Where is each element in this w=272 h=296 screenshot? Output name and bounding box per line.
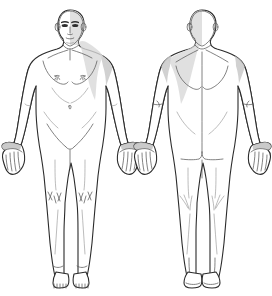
anterior-left-eye (62, 24, 68, 27)
posterior-left-foot (184, 272, 202, 288)
figure-posterior[interactable] (134, 10, 271, 288)
posterior-body-outline[interactable] (146, 10, 260, 280)
posterior-left-arm[interactable] (146, 67, 168, 145)
anterior-right-eye (72, 24, 78, 27)
posterior-right-foot (202, 272, 220, 288)
anterior-left-arm[interactable] (14, 67, 36, 145)
body-diagram-canvas[interactable] (0, 0, 272, 296)
posterior-right-arm[interactable] (238, 67, 260, 145)
anterior-right-foot (73, 272, 89, 288)
anterior-body-outline[interactable] (14, 10, 128, 280)
figure-anterior[interactable] (2, 10, 140, 288)
anterior-right-arm[interactable] (106, 67, 128, 145)
anterior-left-foot (53, 272, 69, 288)
body-diagram (0, 0, 272, 296)
